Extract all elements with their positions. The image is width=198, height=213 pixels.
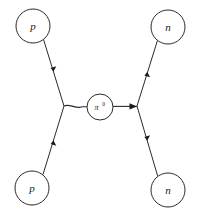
arrowhead-top-right-icon bbox=[144, 72, 150, 77]
exchange-label-superscript: 0 bbox=[102, 101, 105, 107]
leg-line-top-left bbox=[44, 39, 65, 106]
leg-outgoing-top-right bbox=[137, 40, 158, 106]
node-label-bottom-left: p bbox=[28, 182, 35, 194]
exchange-line-right-group bbox=[113, 103, 137, 109]
arrowhead-exchange-icon bbox=[130, 103, 138, 109]
exchange-line-left bbox=[64, 105, 87, 107]
node-top-right-neutron[interactable]: n bbox=[151, 10, 185, 44]
node-label-bottom-right: n bbox=[165, 184, 171, 196]
node-top-left-proton[interactable]: p bbox=[16, 9, 50, 43]
node-bottom-left-proton[interactable]: p bbox=[15, 171, 49, 205]
arrowhead-top-left-icon bbox=[51, 66, 57, 71]
leg-incoming-top-left bbox=[44, 39, 65, 106]
node-label-top-right: n bbox=[165, 21, 171, 33]
exchange-circle-pion[interactable] bbox=[87, 94, 113, 120]
leg-outgoing-bottom-right bbox=[137, 106, 158, 176]
feynman-diagram-canvas: p n p n π 0 bbox=[0, 0, 198, 213]
leg-line-bottom-right bbox=[137, 106, 158, 176]
feynman-diagram-svg: p n p n π 0 bbox=[0, 0, 198, 213]
node-bottom-right-neutron[interactable]: n bbox=[151, 173, 185, 207]
leg-line-bottom-left bbox=[43, 106, 64, 175]
arrowhead-bottom-left-icon bbox=[51, 141, 57, 146]
leg-incoming-bottom-left bbox=[43, 106, 64, 175]
exchange-node-pion[interactable]: π 0 bbox=[87, 94, 113, 120]
arrowhead-bottom-right-icon bbox=[144, 135, 150, 140]
node-label-top-left: p bbox=[29, 20, 36, 32]
